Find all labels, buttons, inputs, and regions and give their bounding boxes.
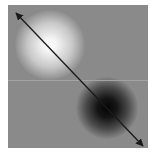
double-arrow-icon bbox=[0, 0, 154, 161]
